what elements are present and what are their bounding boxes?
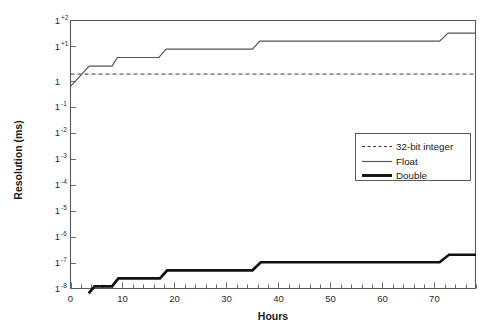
y-tick-exponent: -5 [61, 204, 67, 211]
chart-container: Resolution (ms) 1+2 1+1 1 1-1 1-2 1-3 1-… [0, 0, 493, 331]
y-tick-exponent: -4 [61, 178, 67, 185]
x-tick-label: 10 [117, 293, 128, 304]
y-tick-base: 1 [55, 76, 60, 87]
y-tick-base: 1 [55, 127, 60, 138]
x-tick-label: 40 [273, 293, 284, 304]
y-tick-exponent: -6 [61, 230, 67, 237]
y-tick-base: 1 [55, 179, 60, 190]
y-tick-label: 1 [55, 76, 60, 87]
y-tick-base: 1 [55, 283, 60, 294]
y-tick-base: 1 [55, 153, 60, 164]
y-tick-base: 1 [55, 231, 60, 242]
x-tick-label: 60 [377, 293, 388, 304]
x-tick-label: 20 [169, 293, 180, 304]
legend-label-32bit-integer: 32-bit integer [396, 141, 454, 152]
y-tick-base: 1 [55, 41, 60, 52]
y-tick-exponent: -7 [61, 256, 67, 263]
y-axis-title: Resolution (ms) [12, 120, 24, 199]
y-tick-exponent: -3 [61, 152, 67, 159]
y-tick-exponent: +1 [61, 40, 69, 47]
y-tick-base: 1 [55, 101, 60, 112]
x-tick-label: 0 [68, 293, 73, 304]
legend-label-float: Float [396, 156, 418, 167]
y-tick-exponent: +2 [61, 14, 69, 21]
chart-legend: 32-bit integer Float Double [356, 134, 471, 182]
y-tick-base: 1 [55, 15, 60, 26]
y-tick-exponent: -2 [61, 126, 67, 133]
x-tick-label: 50 [325, 293, 336, 304]
y-tick-exponent: -8 [61, 282, 67, 289]
x-tick-label: 30 [221, 293, 232, 304]
y-tick-base: 1 [55, 205, 60, 216]
legend-label-double: Double [396, 170, 428, 181]
resolution-vs-hours-chart: Resolution (ms) 1+2 1+1 1 1-1 1-2 1-3 1-… [0, 0, 493, 331]
y-tick-exponent: -1 [61, 100, 67, 107]
y-tick-base: 1 [55, 257, 60, 268]
x-axis-title: Hours [258, 310, 288, 322]
x-tick-label: 70 [429, 293, 440, 304]
